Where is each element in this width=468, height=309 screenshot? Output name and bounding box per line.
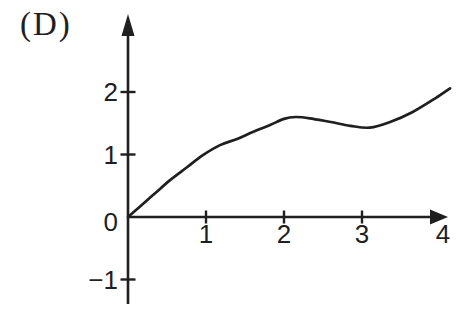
y-tick-label: −1	[88, 265, 118, 295]
y-tick-label: 2	[104, 77, 118, 107]
y-tick-label: 0	[104, 207, 118, 237]
x-tick-label: 2	[277, 219, 291, 249]
y-axis-arrowhead-icon	[122, 14, 135, 36]
x-tick-label: 4	[436, 219, 450, 249]
y-tick-label: 1	[104, 140, 118, 170]
x-tick-label: 1	[199, 219, 213, 249]
curve-series	[128, 88, 450, 217]
x-tick-label: 3	[355, 219, 369, 249]
figure-panel: (D) 1234210−1	[0, 0, 468, 309]
plot-canvas: 1234210−1	[0, 0, 468, 309]
